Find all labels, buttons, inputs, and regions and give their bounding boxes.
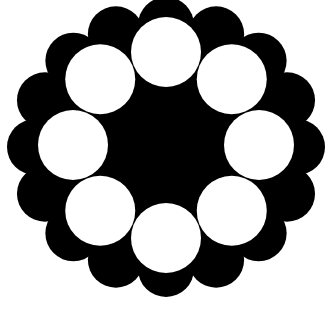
white-circle	[197, 176, 267, 246]
rosette-figure	[0, 0, 331, 312]
white-circle	[131, 203, 201, 273]
white-circle	[131, 17, 201, 87]
white-circle	[38, 110, 108, 180]
white-circle	[197, 44, 267, 114]
white-circle	[224, 110, 294, 180]
white-circle	[65, 44, 135, 114]
white-circle	[65, 176, 135, 246]
